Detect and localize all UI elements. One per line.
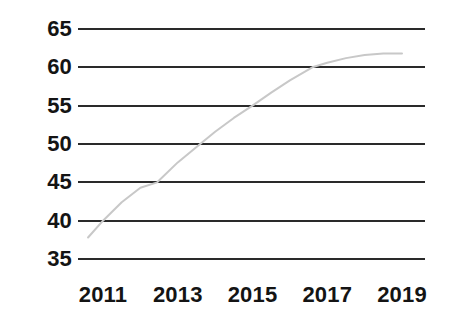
x-tick-label-2019: 2019 <box>357 284 447 306</box>
line-chart: 65605550454035 20112013201520172019 <box>0 0 456 331</box>
x-axis-tick-labels: 20112013201520172019 <box>0 0 456 331</box>
